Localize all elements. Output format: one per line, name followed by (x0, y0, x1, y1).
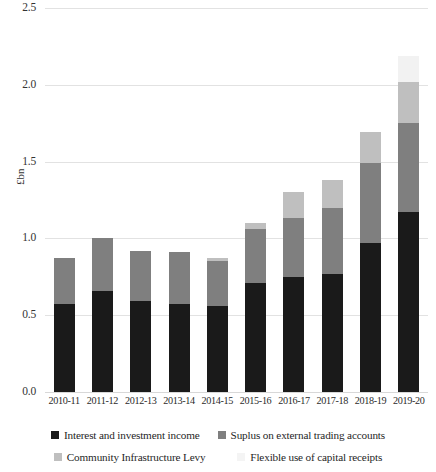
y-axis-tick-label: 0.0 (2, 386, 36, 398)
legend-swatch-icon (54, 453, 62, 461)
bar-segment[interactable] (130, 251, 151, 302)
chart-legend: Interest and investment incomeSuplus on … (0, 424, 436, 468)
legend-item[interactable]: Community Infrastructure Levy (54, 451, 206, 463)
bar-segment[interactable] (54, 258, 75, 304)
x-axis-tick-label: 2016-17 (275, 395, 313, 406)
bar-segment[interactable] (169, 304, 190, 392)
bar-column[interactable] (390, 8, 428, 392)
bar-stack (245, 223, 266, 392)
x-axis-tick-label: 2010-11 (45, 395, 83, 406)
x-axis-tick-label: 2015-16 (237, 395, 275, 406)
y-axis-tick-label: 2.5 (2, 2, 36, 14)
y-axis-tick-label: 1.5 (2, 156, 36, 168)
legend-row-1: Interest and investment incomeSuplus on … (0, 424, 436, 446)
x-axis-line (45, 392, 428, 393)
bar-segment[interactable] (283, 277, 304, 392)
x-axis-tick-labels: 2010-112011-122012-132013-142014-152015-… (45, 395, 428, 406)
bar-segment[interactable] (54, 304, 75, 392)
bar-column[interactable] (45, 8, 83, 392)
bar-column[interactable] (198, 8, 236, 392)
bar-segment[interactable] (360, 243, 381, 392)
bar-segment[interactable] (92, 291, 113, 392)
bar-segment[interactable] (398, 123, 419, 212)
y-axis-title: £bn (2, 185, 16, 225)
bar-stack (54, 258, 75, 392)
x-axis-tick-label: 2013-14 (160, 395, 198, 406)
bar-stack (360, 132, 381, 392)
bar-segment[interactable] (130, 301, 151, 392)
bar-segment[interactable] (92, 238, 113, 290)
bar-segment[interactable] (360, 132, 381, 163)
bar-segment[interactable] (207, 306, 228, 392)
bar-column[interactable] (313, 8, 351, 392)
bar-column[interactable] (160, 8, 198, 392)
bar-stack (207, 258, 228, 392)
legend-swatch-icon (51, 431, 59, 439)
bar-segment[interactable] (245, 229, 266, 283)
y-axis-tick-label: 0.5 (2, 309, 36, 321)
legend-label: Flexible use of capital receipts (250, 451, 382, 463)
bar-column[interactable] (122, 8, 160, 392)
y-axis-tick-label: 1.0 (2, 233, 36, 245)
bar-column[interactable] (237, 8, 275, 392)
bar-segment[interactable] (245, 283, 266, 392)
x-axis-tick-label: 2011-12 (83, 395, 121, 406)
bar-segment[interactable] (322, 208, 343, 274)
bar-stack (322, 180, 343, 392)
bar-segment[interactable] (360, 163, 381, 243)
bar-segment[interactable] (398, 212, 419, 392)
bar-column[interactable] (275, 8, 313, 392)
bar-group (45, 8, 428, 392)
bar-stack (169, 252, 190, 392)
plot-area: 0.00.51.01.52.02.5 (45, 8, 428, 392)
legend-label: Suplus on external trading accounts (231, 429, 385, 441)
bar-segment[interactable] (169, 252, 190, 304)
bar-stack (130, 251, 151, 392)
bar-segment[interactable] (398, 82, 419, 123)
legend-item[interactable]: Flexible use of capital receipts (237, 451, 382, 463)
legend-row-2: Community Infrastructure LevyFlexible us… (0, 446, 436, 468)
x-axis-tick-label: 2019-20 (390, 395, 428, 406)
x-axis-tick-label: 2017-18 (313, 395, 351, 406)
bar-stack (283, 192, 304, 392)
x-axis-tick-label: 2014-15 (198, 395, 236, 406)
legend-item[interactable]: Interest and investment income (51, 429, 200, 441)
bar-column[interactable] (83, 8, 121, 392)
bar-segment[interactable] (322, 274, 343, 392)
bar-segment[interactable] (283, 218, 304, 276)
legend-label: Community Infrastructure Levy (67, 451, 206, 463)
x-axis-tick-label: 2012-13 (122, 395, 160, 406)
legend-item[interactable]: Suplus on external trading accounts (218, 429, 385, 441)
bar-segment[interactable] (283, 192, 304, 218)
bar-segment[interactable] (398, 56, 419, 82)
stacked-bar-chart: £bn 0.00.51.01.52.02.5 2010-112011-12201… (0, 0, 436, 472)
y-axis-tick-label: 2.0 (2, 79, 36, 91)
bar-stack (398, 56, 419, 392)
legend-label: Interest and investment income (64, 429, 200, 441)
bar-segment[interactable] (207, 261, 228, 306)
bar-column[interactable] (352, 8, 390, 392)
y-axis-title-label: £bn (14, 169, 26, 186)
bar-segment[interactable] (322, 180, 343, 208)
bar-stack (92, 238, 113, 392)
legend-swatch-icon (218, 431, 226, 439)
legend-swatch-icon (237, 453, 245, 461)
x-axis-tick-label: 2018-19 (352, 395, 390, 406)
